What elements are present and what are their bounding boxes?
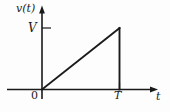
waveform-figure: v(t) V 0 T t — [0, 0, 170, 112]
ramp-waveform-plot — [0, 0, 170, 112]
x-axis-tick-label-T: T — [114, 90, 121, 101]
x-axis — [7, 87, 158, 93]
y-axis — [39, 6, 45, 100]
ramp-rising-edge — [42, 28, 120, 90]
y-axis-tick-label-V: V — [28, 22, 37, 34]
origin-label: 0 — [31, 90, 38, 101]
x-axis-label: t — [156, 91, 160, 102]
y-axis-label: v(t) — [16, 3, 35, 14]
y-axis-arrowhead — [39, 6, 45, 14]
